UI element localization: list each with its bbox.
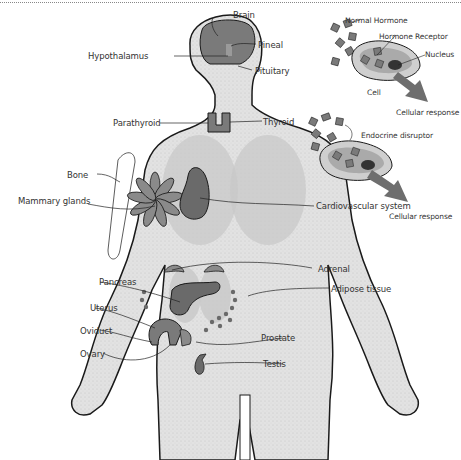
label-cellular-response-bottom: Cellular response	[389, 212, 452, 221]
label-uterus: Uterus	[90, 303, 118, 313]
label-adrenal: Adrenal	[318, 264, 350, 274]
label-nucleus: Nucleus	[425, 50, 454, 59]
label-pineal: Pineal	[258, 40, 283, 50]
label-brain: Brain	[233, 10, 255, 20]
label-prostate: Prostate	[261, 333, 295, 343]
label-cell: Cell	[367, 88, 381, 97]
right-lung	[230, 135, 306, 245]
label-normal-hormone: Normal Hormone	[345, 16, 408, 25]
endocrine-diagram	[0, 0, 461, 460]
body-silhouette	[72, 15, 419, 460]
label-mammary-glands: Mammary glands	[18, 196, 90, 206]
label-pituitary: Pituitary	[255, 66, 290, 76]
label-hypothalamus: Hypothalamus	[88, 51, 148, 61]
label-thyroid: Thyroid	[263, 117, 294, 127]
brain-organ	[200, 20, 255, 64]
label-testis: Testis	[263, 359, 286, 369]
label-oviduct: Oviduct	[80, 326, 112, 336]
label-bone: Bone	[67, 170, 88, 180]
label-cellular-response-top: Cellular response	[396, 108, 459, 117]
label-ovary: Ovary	[80, 349, 105, 359]
label-pancreas: Pancreas	[99, 277, 136, 287]
label-cardiovascular-system: Cardiovascular system	[316, 201, 411, 211]
label-endocrine-disruptor: Endocrine disruptor	[361, 131, 433, 140]
label-parathyroid: Parathyroid	[113, 118, 161, 128]
label-hormone-receptor: Hormone Receptor	[379, 32, 448, 41]
label-adipose-tissue: Adipose tissue	[331, 284, 391, 294]
